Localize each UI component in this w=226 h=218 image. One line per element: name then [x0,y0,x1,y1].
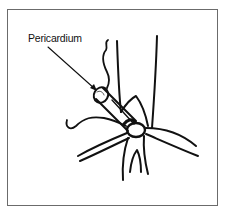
stem-right [144,136,148,174]
stem-left [123,138,128,180]
vessel-right [152,36,157,128]
suture-thread-top [103,40,109,88]
branch-left-lower [80,138,129,161]
branch-left-upper [78,133,127,156]
branch-right-lower [146,134,198,156]
central-ring [127,123,145,137]
pericardium-label: Pericardium [28,32,82,44]
stem-mid-left [130,150,141,172]
leader-arrow [48,47,97,91]
